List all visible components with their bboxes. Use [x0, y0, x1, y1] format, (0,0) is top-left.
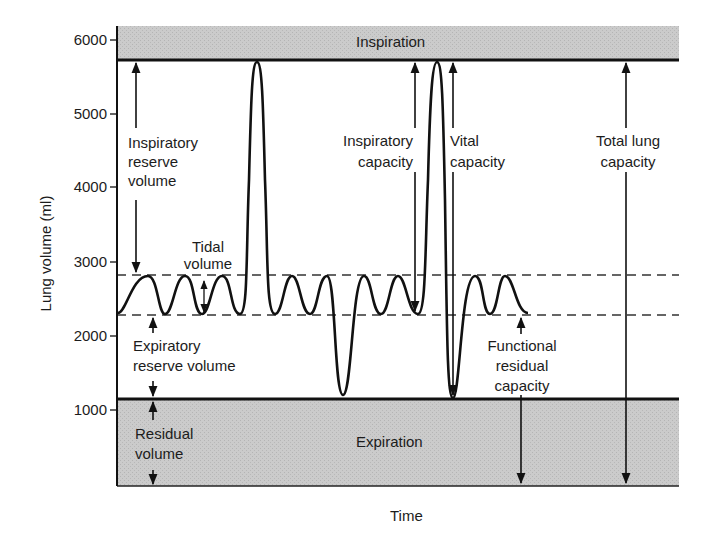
- expiration-label: Expiration: [356, 432, 423, 451]
- tlc-label: Total lung capacity: [586, 131, 670, 171]
- inspiration-label: Inspiration: [356, 32, 425, 51]
- y-axis-ticks: [110, 40, 117, 410]
- ic-label: Inspiratory capacity: [330, 131, 414, 171]
- y-axis-label: Lung volume (ml): [37, 174, 54, 334]
- rv-label: Residual volume: [135, 424, 193, 463]
- frc-label: Functional residual capacity: [478, 336, 566, 395]
- y-tick-6000: 6000: [47, 31, 107, 48]
- y-tick-2000: 2000: [47, 327, 107, 344]
- vc-label: Vital capacity: [449, 131, 506, 171]
- lung-volume-diagram: 6000 5000 4000 3000 2000 1000 Lung volum…: [0, 0, 705, 541]
- y-tick-3000: 3000: [47, 253, 107, 270]
- erv-label: Expiratory reserve volume: [133, 336, 236, 375]
- x-axis-label: Time: [390, 506, 423, 525]
- y-tick-1000: 1000: [47, 401, 107, 418]
- tidal-volume-label: Tidal volume: [173, 237, 243, 273]
- irv-label: Inspiratory reserve volume: [127, 133, 199, 190]
- y-tick-5000: 5000: [47, 105, 107, 122]
- y-tick-4000: 4000: [47, 178, 107, 195]
- diagram-canvas: [0, 0, 705, 541]
